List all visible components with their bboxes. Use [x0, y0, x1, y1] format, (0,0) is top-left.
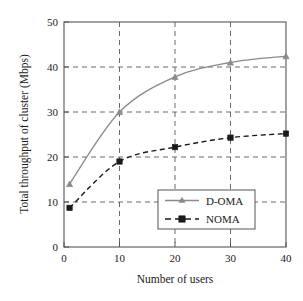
data-point-marker: [228, 135, 233, 140]
legend-label-d-oma: D-OMA: [206, 195, 243, 207]
y-axis-title: Total throughput of cluster (Mbps): [18, 54, 31, 214]
ytick-label-20: 20: [47, 151, 59, 163]
data-point-marker: [172, 144, 177, 149]
ytick-label-30: 30: [47, 106, 59, 118]
ytick-label-50: 50: [47, 16, 59, 28]
ytick-label-40: 40: [47, 61, 59, 73]
xtick-label-30: 30: [225, 252, 237, 264]
chart-canvas: 0 10 20 30 40 50 0 10 20 30 40 Number of…: [0, 0, 303, 301]
square-marker-icon: [179, 216, 185, 222]
chart-figure: 0 10 20 30 40 50 0 10 20 30 40 Number of…: [0, 0, 303, 301]
data-point-marker: [117, 159, 122, 164]
xtick-label-0: 0: [61, 252, 67, 264]
ytick-label-10: 10: [47, 196, 59, 208]
legend: D-OMA NOMA: [158, 190, 255, 229]
legend-label-noma: NOMA: [206, 213, 240, 225]
xtick-label-40: 40: [281, 252, 293, 264]
data-point-marker: [67, 205, 72, 210]
x-axis-title: Number of users: [137, 273, 214, 285]
xtick-label-10: 10: [114, 252, 126, 264]
data-point-marker: [283, 131, 288, 136]
xtick-label-20: 20: [170, 252, 182, 264]
ytick-label-0: 0: [53, 241, 59, 253]
